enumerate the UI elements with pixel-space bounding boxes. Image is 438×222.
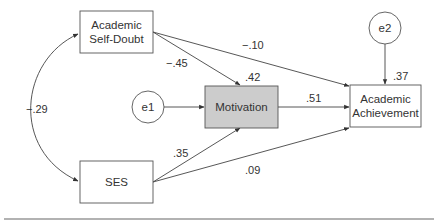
node-academic-self-doubt: Academic Self-Doubt <box>80 11 153 53</box>
node-label: Self-Doubt <box>89 33 144 45</box>
coef-ses-achievement: .09 <box>245 164 260 176</box>
path-diagram: Academic Self-Doubt SES Motivation Acade… <box>0 0 438 222</box>
node-academic-achievement: Academic Achievement <box>350 85 421 127</box>
node-label: Achievement <box>352 107 419 119</box>
path-ses-motivation <box>153 128 240 182</box>
node-label: Academic <box>360 93 411 105</box>
node-label: SES <box>105 176 128 188</box>
node-label: Motivation <box>215 101 267 113</box>
node-ses: SES <box>80 161 153 203</box>
coef-covariance: −.29 <box>26 103 48 115</box>
node-motivation: Motivation <box>205 86 278 128</box>
coef-selfdoubt-achievement: −.10 <box>242 39 264 51</box>
node-label: Academic <box>91 19 142 31</box>
coef-motivation-r2: .42 <box>245 71 260 83</box>
node-label: e1 <box>142 101 155 113</box>
node-e1: e1 <box>132 91 164 123</box>
coef-ses-motivation: .35 <box>173 147 188 159</box>
coef-achievement-r2: .37 <box>393 70 408 82</box>
coef-selfdoubt-motivation: −.45 <box>166 57 188 69</box>
node-e2: e2 <box>369 12 401 44</box>
coef-motivation-achievement: .51 <box>306 92 321 104</box>
node-label: e2 <box>379 22 392 34</box>
